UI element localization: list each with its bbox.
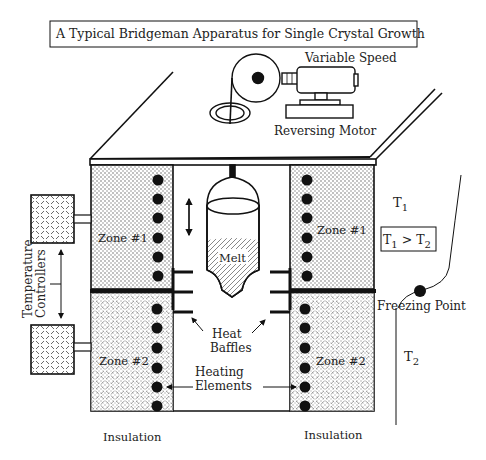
controller-link-arrow-icon xyxy=(50,250,61,318)
melt-label: Melt xyxy=(219,251,246,265)
title-text: A Typical Bridgeman Apparatus for Single… xyxy=(55,26,425,41)
heat-baffles-label-1: Heat xyxy=(212,327,242,341)
heating-elements-label-1: Heating xyxy=(195,365,244,379)
crucible xyxy=(207,165,259,297)
heating-elements-label-2: Elements xyxy=(195,379,252,393)
t2-label: T2 xyxy=(404,349,419,367)
freezing-point-marker-icon xyxy=(414,285,426,297)
t1-label: T1 xyxy=(393,195,408,213)
zone1-right-label: Zone #1 xyxy=(317,223,367,237)
controllers-label-2: Controllers xyxy=(34,249,48,318)
baffle-arrow-right-icon xyxy=(252,320,265,333)
motor-label-top: Variable Speed xyxy=(304,51,397,65)
right-furnace-wall xyxy=(289,165,376,411)
zone1-left-label: Zone #1 xyxy=(98,231,148,245)
temperature-controller-upper xyxy=(31,195,91,243)
bridgeman-diagram: A Typical Bridgeman Apparatus for Single… xyxy=(0,0,486,460)
baffle-arrow-left-icon xyxy=(192,318,203,331)
pulley-axle-icon xyxy=(253,73,264,84)
zone2-right-label: Zone #2 xyxy=(316,354,366,368)
heat-baffles-label-2: Baffles xyxy=(210,341,252,355)
motor-label-bottom: Reversing Motor xyxy=(274,124,377,138)
title-box: A Typical Bridgeman Apparatus for Single… xyxy=(50,21,425,47)
freezing-point-label: Freezing Point xyxy=(377,299,466,313)
temperature-controller-lower xyxy=(31,325,91,374)
zone2-left-label: Zone #2 xyxy=(99,354,149,368)
insulation-right-label: Insulation xyxy=(304,428,363,442)
insulation-left-label: Insulation xyxy=(103,430,162,444)
controllers-label-1: Temperature xyxy=(21,239,35,318)
